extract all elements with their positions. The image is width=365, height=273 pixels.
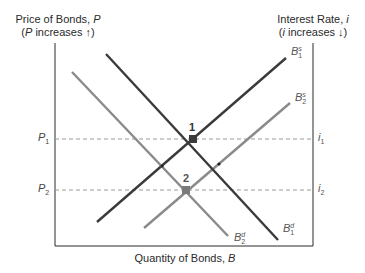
label-p2: P2 xyxy=(38,182,49,199)
label-demand-1: Bd1 xyxy=(283,222,294,236)
supply-1-sup: s xyxy=(298,45,302,52)
left-axis-subtitle-text: increases ↑) xyxy=(32,26,94,38)
right-axis-title: Interest Rate, i (i increases ↓) xyxy=(268,13,358,39)
equilibrium-label-1: 1 xyxy=(189,121,195,134)
supply-1-name: B xyxy=(291,45,298,57)
supply-1-indices: s1 xyxy=(298,45,302,59)
label-demand-2: Bd2 xyxy=(234,231,245,245)
i1-sub: 1 xyxy=(320,138,324,145)
label-supply-2: Bs2 xyxy=(295,91,306,105)
intersection-dot xyxy=(217,162,220,165)
diagram-canvas xyxy=(0,0,365,273)
demand-curve-2 xyxy=(72,72,228,236)
equilibrium-point-1 xyxy=(189,135,197,143)
demand-1-name: B xyxy=(283,222,290,234)
right-axis-title-text: Interest Rate, xyxy=(277,13,346,25)
label-supply-1: Bs1 xyxy=(291,45,302,59)
supply-2-indices: s2 xyxy=(302,91,306,105)
p1-sub: 1 xyxy=(45,138,49,145)
demand-2-sub: 2 xyxy=(241,238,245,245)
equilibrium-point-2 xyxy=(182,186,190,194)
left-axis-var: P xyxy=(93,13,100,25)
left-axis-title: Price of Bonds, P (P increases ↑) xyxy=(8,13,108,39)
x-axis-var: B xyxy=(228,252,235,264)
demand-curve-1 xyxy=(106,54,278,240)
i2-sub: 2 xyxy=(320,189,324,196)
demand-2-name: B xyxy=(234,231,241,243)
right-axis-subtitle-text: increases ↓) xyxy=(285,26,347,38)
right-axis-var: i xyxy=(346,13,348,25)
label-i2: i2 xyxy=(318,182,324,199)
supply-curve-2 xyxy=(144,103,290,228)
label-p1: P1 xyxy=(38,131,49,148)
demand-2-indices: d2 xyxy=(241,231,245,245)
x-axis-title: Quantity of Bonds, B xyxy=(120,252,250,265)
label-i1: i1 xyxy=(318,131,324,148)
left-axis-title-text: Price of Bonds, xyxy=(16,13,94,25)
equilibrium-label-2: 2 xyxy=(183,172,189,185)
supply-2-name: B xyxy=(295,91,302,103)
supply-2-sub: 2 xyxy=(302,98,306,105)
demand-2-sup: d xyxy=(241,231,245,238)
x-axis-title-text: Quantity of Bonds, xyxy=(135,252,229,264)
supply-1-sub: 1 xyxy=(298,52,302,59)
supply-2-sup: s xyxy=(302,91,306,98)
p2-sub: 2 xyxy=(45,189,49,196)
demand-1-sup: d xyxy=(290,222,294,229)
demand-1-sub: 1 xyxy=(290,229,294,236)
intersection-dot xyxy=(160,164,163,167)
demand-1-indices: d1 xyxy=(290,222,294,236)
